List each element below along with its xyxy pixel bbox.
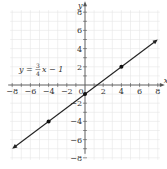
y-tick-label: −4 bbox=[70, 117, 82, 126]
data-point bbox=[47, 119, 51, 123]
x-tick-label: 4 bbox=[119, 87, 124, 96]
y-tick-label: 6 bbox=[77, 26, 82, 35]
x-tick-label: 2 bbox=[101, 87, 106, 96]
y-axis-arrow-icon bbox=[83, 1, 87, 6]
x-tick-label: 8 bbox=[155, 87, 160, 96]
y-tick-label: −6 bbox=[70, 136, 82, 145]
y-tick-label: 2 bbox=[77, 63, 82, 72]
x-tick-label: 6 bbox=[137, 87, 142, 96]
equation-label: y =34x − 1 bbox=[18, 62, 63, 77]
line-graph: −8−6−4−202468−8−6−4−22468xy y =34x − 1 bbox=[0, 0, 167, 169]
y-tick-label: 4 bbox=[77, 45, 82, 54]
equation-lhs: y = bbox=[18, 65, 33, 74]
x-tick-label: −8 bbox=[6, 87, 18, 96]
y-axis-label: y bbox=[77, 1, 83, 10]
x-tick-label: 0 bbox=[78, 87, 83, 96]
data-point bbox=[83, 92, 87, 96]
y-tick-label: −8 bbox=[70, 154, 82, 163]
equation-denominator: 4 bbox=[36, 70, 40, 77]
x-tick-label: −6 bbox=[25, 87, 37, 96]
x-tick-label: −4 bbox=[43, 87, 55, 96]
data-point bbox=[119, 65, 123, 69]
x-tick-label: −2 bbox=[61, 87, 73, 96]
equation-numerator: 3 bbox=[36, 62, 40, 69]
x-axis-label: x bbox=[164, 76, 167, 85]
equation-rhs: x − 1 bbox=[42, 65, 63, 74]
